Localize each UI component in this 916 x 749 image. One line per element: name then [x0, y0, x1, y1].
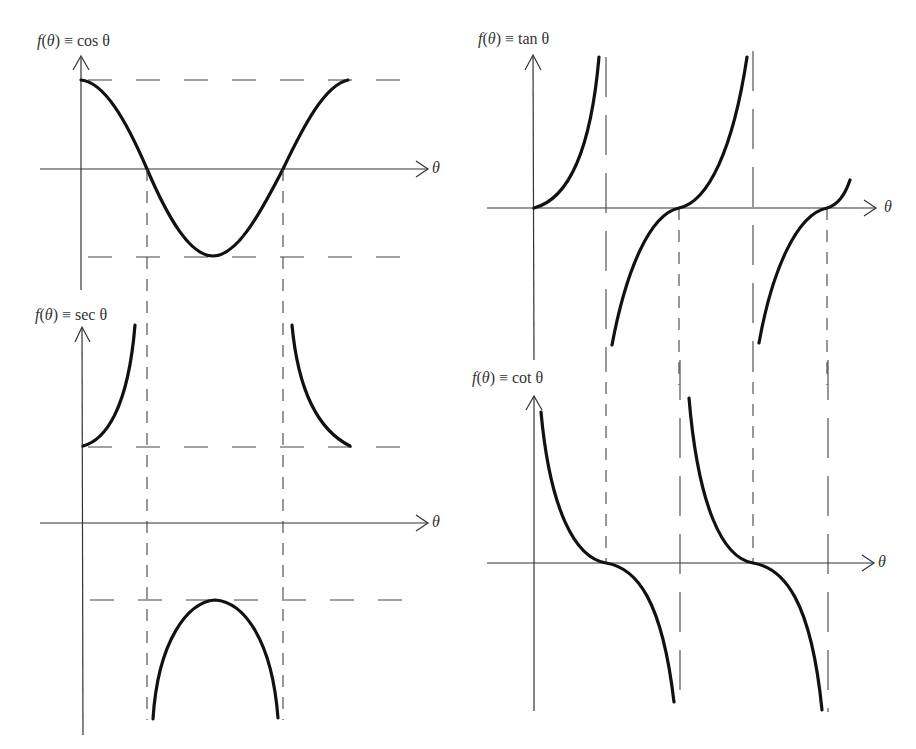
tan-branch-1	[534, 57, 599, 208]
cos-curve	[81, 80, 348, 256]
cos-func-text: cos θ	[77, 32, 110, 49]
tan-panel	[487, 51, 876, 385]
cot-function-label: f(θ) ≡ cot θ	[472, 369, 543, 387]
trig-function-graphs: .ax { stroke: #333; stroke-width: 1.2; f…	[0, 0, 916, 749]
cos-x-axis-label: θ	[432, 159, 440, 177]
sec-curve-right	[292, 325, 350, 446]
cos-function-label: f(θ) ≡ cos θ	[37, 32, 110, 50]
sec-y-axis	[82, 328, 83, 735]
sec-function-label: f(θ) ≡ sec θ	[35, 306, 107, 324]
sec-panel	[40, 325, 428, 735]
tan-branch-3	[759, 180, 850, 343]
sec-curve-middle	[153, 600, 278, 719]
cot-branch-2	[689, 398, 822, 710]
sec-x-axis-label: θ	[432, 513, 440, 531]
cos-panel	[40, 56, 428, 290]
tan-func-text: tan θ	[518, 30, 549, 47]
cot-func-text: cot θ	[512, 369, 543, 386]
cot-panel	[487, 360, 874, 712]
cot-x-axis-label: θ	[878, 553, 886, 571]
cot-branch-1	[541, 412, 674, 702]
tan-x-axis-label: θ	[884, 198, 892, 216]
sec-curve-left	[83, 325, 135, 446]
sec-func-text: sec θ	[75, 306, 107, 323]
tan-function-label: f(θ) ≡ tan θ	[478, 30, 549, 48]
